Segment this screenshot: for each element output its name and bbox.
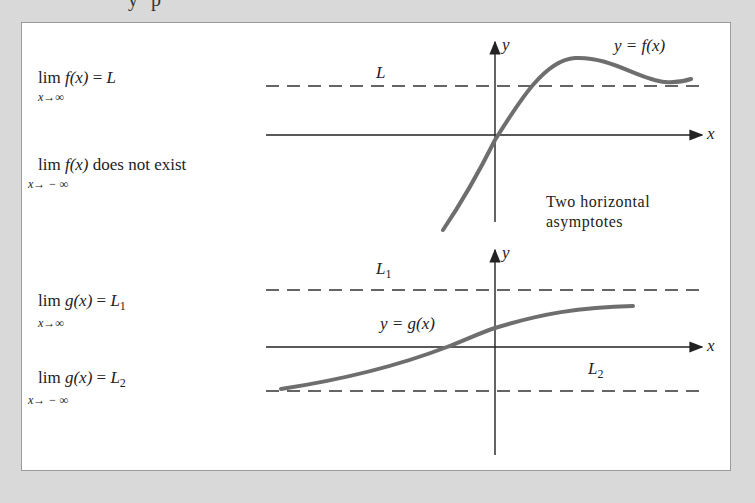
lim-word: lim — [38, 68, 61, 87]
does-not-exist-text: does not exist — [93, 155, 187, 174]
x-axis-label: x — [707, 124, 715, 144]
limit-g-pos-inf: lim g(x) = L1 x→∞ — [38, 291, 126, 331]
asymptote-L1-label: L1 — [376, 259, 391, 282]
limit-subscript: x→ − ∞ — [28, 393, 126, 408]
subscript-2: 2 — [597, 367, 603, 381]
limit-subscript: x→∞ — [38, 316, 126, 331]
subscript-1: 1 — [120, 299, 126, 313]
limit-g-neg-inf: lim g(x) = L2 x→ − ∞ — [38, 368, 126, 408]
limit-f-neg-inf: lim f(x) does not exist x→ − ∞ — [38, 155, 186, 192]
subscript-2: 2 — [120, 376, 126, 390]
func-g: g(x) — [65, 291, 92, 310]
equals: = — [97, 291, 107, 310]
lim-word: lim — [38, 368, 61, 387]
y-axis-label: y — [502, 35, 510, 55]
bottom-graph — [266, 250, 705, 455]
limit-subscript: x→ − ∞ — [28, 177, 186, 192]
note-line-2: asymptotes — [546, 212, 650, 232]
y-axis-label: y — [502, 243, 510, 263]
func-f: f(x) — [65, 68, 89, 87]
equals: = — [97, 368, 107, 387]
limit-value-L: L — [107, 68, 116, 87]
limit-value-L: L — [110, 291, 119, 310]
x-axis-label: x — [707, 336, 715, 356]
asymptote-L2-label: L2 — [588, 359, 603, 382]
lim-word: lim — [38, 155, 61, 174]
curve-g-label: y = g(x) — [380, 314, 435, 334]
subscript-1: 1 — [385, 267, 391, 281]
curve-f-label: y = f(x) — [614, 36, 665, 56]
two-asymptotes-note: Two horizontal asymptotes — [546, 192, 650, 232]
func-g: g(x) — [65, 368, 92, 387]
lim-word: lim — [38, 291, 61, 310]
limit-value-L: L — [110, 368, 119, 387]
limit-subscript: x→∞ — [38, 90, 116, 105]
note-line-1: Two horizontal — [546, 192, 650, 212]
func-f: f(x) — [65, 155, 89, 174]
equals: = — [93, 68, 103, 87]
limit-f-pos-inf: lim f(x) = L x→∞ — [38, 68, 116, 105]
asymptote-L-label: L — [376, 63, 385, 83]
